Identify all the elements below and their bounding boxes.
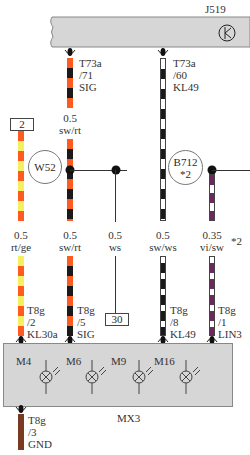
lamp-label-m9: M9 [111,355,126,367]
wire-vi-sw-lower [209,256,215,336]
connector-label: T8g /8 KL49 [170,304,196,340]
connector-label: T8g /1 LIN3 [218,304,242,340]
wire-gauge-label: 0.5 sw/ws [149,229,177,253]
wire-note: *2 [231,235,242,247]
connector-label: T8g /2 KL30a [27,304,58,340]
lamp-icon [129,360,159,396]
splice-node [112,166,121,175]
k-ground-symbol-icon [217,23,237,43]
lamp-icon [82,360,112,396]
wire-gauge-label: 0.5 sw/rt [59,229,81,253]
wire-sw-ws-lower [160,256,166,336]
splice-connection-line [212,170,250,171]
wire-tag-2: 2 [10,118,34,131]
splice-w52: W52 [28,150,62,184]
lamp-icon [176,360,206,396]
wire-sw-rt-mid [67,139,73,221]
connector-label: T73a /71 SIG [79,57,102,93]
wire-sw-ws-upper [160,58,166,221]
wire-tag-30: 30 [105,313,129,326]
wire-sw-rt-upper [67,58,73,108]
wire-gnd [18,414,24,450]
module-mx3-label: MX3 [117,412,140,424]
splice-b712: B712 *2 [168,150,203,185]
lamp-label-m4: M4 [16,355,31,367]
wire-gauge-label: 0.5 sw/rt [59,112,81,136]
lamp-label-m6: M6 [66,355,81,367]
wire-rt-ge-upper [18,131,24,221]
wire-rt-ge-lower [18,256,24,336]
connector-label: T8g /5 SIG [77,304,95,340]
connector-label: T73a /60 KL49 [173,57,199,93]
wire-gauge-label: 0.5 ws [108,229,122,253]
wire-ws-upper [115,170,116,222]
wire-ws-lower [115,256,116,313]
wire-sw-rt-lower [67,256,73,336]
wire-gauge-label: 0.5 rt/ge [11,229,31,253]
module-j519-box [0,0,250,50]
connector-label: T8g /3 GND [28,414,52,450]
lamp-icon [36,360,66,396]
wire-gauge-label: 0.35 vi/sw [200,229,224,253]
wire-vi-sw-upper [209,174,215,221]
